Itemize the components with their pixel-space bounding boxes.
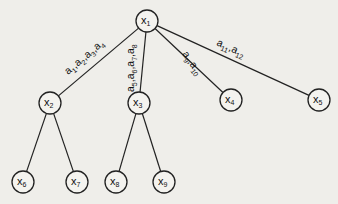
edge-label-x1-x5: a11,a12: [214, 36, 247, 61]
edge-x3-x8: [119, 114, 136, 172]
node-x4: x4: [220, 89, 242, 111]
edge-labels: a1,a2,a3,a4a5,a6,a7,a8a9,a10a11,a12: [62, 36, 248, 92]
edge-label-x1-x4: a9,a10: [179, 48, 206, 78]
edge-x1-x3: [140, 32, 146, 92]
node-x6: x6: [12, 171, 34, 193]
node-x2: x2: [39, 92, 61, 114]
nodes: x1x2x3x4x5x6x7x8x9: [12, 10, 330, 193]
edge-x2-x6: [27, 113, 47, 171]
edge-label-x1-x3: a5,a6,a7,a8: [124, 44, 138, 92]
edge-x2-x7: [54, 113, 74, 171]
edge-label-x1-x2: a1,a2,a3,a4: [62, 37, 108, 78]
node-x1: x1: [136, 10, 158, 32]
node-x5: x5: [308, 89, 330, 111]
node-x7: x7: [66, 171, 88, 193]
node-x9: x9: [153, 171, 175, 193]
tree-diagram: a1,a2,a3,a4a5,a6,a7,a8a9,a10a11,a12 x1x2…: [0, 0, 338, 204]
edge-x3-x9: [142, 113, 160, 171]
node-x8: x8: [105, 171, 127, 193]
edge-x1-x5: [157, 26, 309, 96]
edges: [27, 26, 309, 172]
node-x3: x3: [128, 92, 150, 114]
